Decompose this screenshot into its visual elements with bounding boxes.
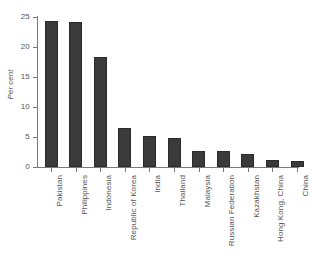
bar (69, 22, 82, 167)
bar (192, 151, 205, 167)
bar (217, 151, 230, 167)
bar-chart: Per cent 0510152025 PakistanPhilippinesI… (0, 0, 311, 261)
y-tick-label: 20 (0, 43, 30, 51)
x-tick-mark (223, 168, 224, 172)
bar (266, 160, 279, 167)
bar (241, 154, 254, 167)
x-tick-label: Thailand (178, 175, 187, 207)
y-tick-label: 10 (0, 103, 30, 111)
y-tick-mark (33, 47, 37, 48)
y-axis-line (37, 16, 38, 168)
x-tick-mark (76, 168, 77, 172)
bar (291, 161, 304, 167)
x-tick-mark (100, 168, 101, 172)
y-tick-label: 5 (0, 133, 30, 141)
x-tick-label: Malaysia (203, 175, 212, 207)
x-tick-mark (199, 168, 200, 172)
x-tick-mark (174, 168, 175, 172)
x-tick-mark (297, 168, 298, 172)
x-tick-label: Hong Kong, China (276, 175, 285, 242)
x-tick-mark (248, 168, 249, 172)
x-tick-mark (51, 168, 52, 172)
y-tick-label: 0 (0, 163, 30, 171)
y-tick-mark (33, 107, 37, 108)
bar (118, 128, 131, 167)
x-tick-label: India (153, 175, 162, 193)
bar (94, 57, 107, 167)
y-tick-mark (33, 137, 37, 138)
bar (45, 21, 58, 167)
x-tick-mark (149, 168, 150, 172)
y-tick-label: 25 (0, 13, 30, 21)
x-tick-label: China (301, 175, 310, 196)
x-tick-label: Philippines (80, 175, 89, 215)
x-tick-mark (272, 168, 273, 172)
x-tick-label: Russian Federation (227, 175, 236, 246)
y-tick-mark (33, 17, 37, 18)
bar (168, 138, 181, 167)
y-tick-label: 15 (0, 73, 30, 81)
x-tick-label: Republic of Korea (129, 175, 138, 240)
x-tick-mark (125, 168, 126, 172)
x-tick-label: Pakistan (55, 175, 64, 206)
x-tick-label: Indonesia (104, 175, 113, 211)
bar (143, 136, 156, 167)
x-tick-label: Kazakhstan (252, 175, 261, 218)
y-tick-mark (33, 77, 37, 78)
